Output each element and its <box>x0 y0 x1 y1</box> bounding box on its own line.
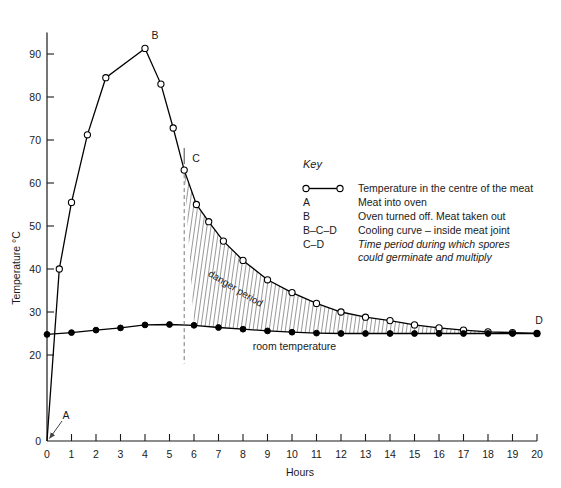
x-tick-label: 9 <box>265 448 271 460</box>
room-data-point <box>314 330 320 336</box>
key-description: Temperature in the centre of the meat <box>358 182 533 194</box>
room-data-point <box>436 331 442 337</box>
meat-data-point <box>68 199 74 205</box>
key-entries: Temperature in the centre of the meatAMe… <box>303 182 533 263</box>
y-tick-label: 70 <box>29 134 41 146</box>
y-axis-title: Temperature °C <box>10 231 22 305</box>
x-tick-label: 6 <box>191 448 197 460</box>
meat-data-point <box>289 290 295 296</box>
key-description: Cooling curve – inside meat joint <box>358 224 510 236</box>
meat-data-point <box>436 325 442 331</box>
point-label-b: B <box>151 29 158 41</box>
room-temperature-label: room temperature <box>253 340 337 352</box>
meat-data-point <box>338 309 344 315</box>
meat-data-point <box>103 75 109 81</box>
x-tick-label: 2 <box>93 448 99 460</box>
room-data-point <box>534 331 540 337</box>
y-tick-label: 0 <box>35 435 41 447</box>
x-tick-label: 4 <box>142 448 148 460</box>
key-title: Key <box>303 158 323 170</box>
room-data-point <box>142 322 148 328</box>
x-tick-label: 8 <box>240 448 246 460</box>
key-description-line2: could germinate and multiply <box>358 251 492 263</box>
room-data-point <box>191 322 197 328</box>
meat-data-point <box>264 277 270 283</box>
meat-data-point <box>362 314 368 320</box>
x-tick-label: 18 <box>482 448 494 460</box>
x-tick-label: 19 <box>507 448 519 460</box>
meat-data-point <box>313 300 319 306</box>
y-tick-label: 60 <box>29 177 41 189</box>
meat-data-point <box>142 45 148 51</box>
room-data-point <box>118 325 124 331</box>
meat-data-point <box>193 201 199 207</box>
room-data-point <box>167 322 173 328</box>
key-legend: Key Temperature in the centre of the mea… <box>303 158 533 263</box>
meat-data-point <box>220 238 226 244</box>
meat-data-point <box>158 81 164 87</box>
room-data-point <box>412 331 418 337</box>
key-code-bcd: B–C–D <box>303 224 337 236</box>
y-tick-label: 80 <box>29 91 41 103</box>
meat-data-point <box>240 257 246 263</box>
room-data-point <box>510 331 516 337</box>
room-data-point <box>363 331 369 337</box>
point-label-a: A <box>62 409 69 421</box>
room-data-point <box>338 331 344 337</box>
room-data-point <box>240 326 246 332</box>
x-tick-label: 13 <box>360 448 372 460</box>
y-tick-label: 40 <box>29 263 41 275</box>
key-code-a: A <box>303 196 310 208</box>
x-tick-label: 14 <box>384 448 396 460</box>
meat-data-point <box>387 318 393 324</box>
x-tick-label: 5 <box>167 448 173 460</box>
key-description: Oven turned off. Meat taken out <box>358 210 506 222</box>
room-data-point <box>265 328 271 334</box>
y-tick-label: 50 <box>29 220 41 232</box>
meat-data-point <box>206 219 212 225</box>
temperature-cooling-chart: 02030405060708090 0123456789101112131415… <box>0 0 561 488</box>
room-data-point <box>216 325 222 331</box>
y-tick-label: 30 <box>29 306 41 318</box>
x-tick-label: 12 <box>335 448 347 460</box>
room-data-point <box>461 331 467 337</box>
chart-root: 02030405060708090 0123456789101112131415… <box>0 0 561 488</box>
point-label-c: C <box>192 152 200 164</box>
meat-data-point <box>181 167 187 173</box>
room-data-point <box>93 327 99 333</box>
meat-data-point <box>84 132 90 138</box>
x-tick-label: 17 <box>458 448 470 460</box>
y-tick-label: 20 <box>29 349 41 361</box>
point-label-d: D <box>535 314 543 326</box>
x-tick-label: 7 <box>216 448 222 460</box>
x-tick-label: 1 <box>69 448 75 460</box>
x-tick-label: 20 <box>531 448 543 460</box>
a-arrow-icon <box>50 421 63 439</box>
room-data-point <box>69 330 75 336</box>
room-data-point <box>44 332 50 338</box>
x-tick-label: 10 <box>286 448 298 460</box>
x-tick-label: 15 <box>409 448 421 460</box>
key-code-cd: C–D <box>303 238 324 250</box>
meat-data-point <box>170 125 176 131</box>
meat-data-point <box>56 266 62 272</box>
key-code-b: B <box>303 210 310 222</box>
x-tick-label: 16 <box>433 448 445 460</box>
x-tick-label: 0 <box>44 448 50 460</box>
meat-data-point <box>411 322 417 328</box>
x-tick-label: 11 <box>311 448 322 460</box>
y-tick-label: 90 <box>29 48 41 60</box>
key-symbol-open-circle-line <box>303 185 343 191</box>
key-description: Meat into oven <box>358 196 427 208</box>
room-data-point <box>387 331 393 337</box>
room-data-point <box>289 329 295 335</box>
x-tick-group: 01234567891011121314151617181920 <box>44 434 543 460</box>
key-description: Time period during which spores <box>358 238 510 250</box>
x-tick-label: 3 <box>118 448 124 460</box>
x-axis-title: Hours <box>286 466 314 478</box>
room-data-point <box>485 331 491 337</box>
